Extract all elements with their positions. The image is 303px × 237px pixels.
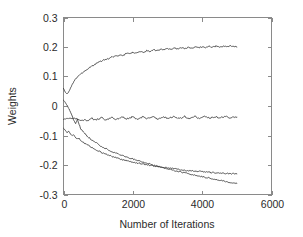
x-tick-label: 2000 bbox=[122, 198, 146, 210]
chart-background bbox=[0, 0, 303, 237]
y-tick-label: -0.2 bbox=[39, 159, 57, 171]
y-tick-label: 0.1 bbox=[43, 70, 58, 82]
y-tick-label: 0.2 bbox=[43, 41, 58, 53]
weights-convergence-chart: -0.3-0.2-0.100.10.20.3 0200040006000 Num… bbox=[0, 0, 303, 237]
x-tick-label: 0 bbox=[62, 198, 68, 210]
x-tick-label: 4000 bbox=[191, 198, 215, 210]
y-tick-label: -0.3 bbox=[39, 189, 57, 201]
y-tick-label: 0 bbox=[52, 100, 58, 112]
y-tick-label: -0.1 bbox=[39, 130, 57, 142]
x-axis-title: Number of Iterations bbox=[119, 218, 214, 230]
chart-figure: -0.3-0.2-0.100.10.20.3 0200040006000 Num… bbox=[0, 0, 303, 237]
y-tick-label: 0.3 bbox=[43, 12, 58, 24]
y-axis-title: Weights bbox=[6, 87, 18, 125]
x-tick-label: 6000 bbox=[261, 198, 285, 210]
